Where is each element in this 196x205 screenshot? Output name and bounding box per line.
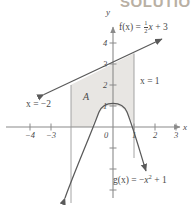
x-axis-label: x [183, 122, 187, 132]
g-label-constant: + 1 [152, 175, 167, 185]
y-axis-label: y [106, 7, 110, 17]
area-between-curves-figure: SOLUTIO [0, 0, 196, 205]
f-label-fraction: 12 [144, 20, 148, 34]
x-tick-label-1: 1 [132, 130, 136, 140]
x-tick-label-minus-4: −4 [25, 130, 35, 140]
f-label-constant: + 3 [153, 22, 168, 32]
y-tick-label-1: 1 [103, 101, 107, 111]
f-fraction-denominator: 2 [144, 28, 148, 35]
function-f-label: f(x) = 12x + 3 [119, 20, 168, 34]
y-tick-label-4: 4 [103, 38, 107, 48]
y-tick-label-3: 3 [103, 59, 107, 69]
g-label-prefix: g(x) = − [113, 175, 144, 185]
x-tick-label-minus-3: −3 [46, 130, 56, 140]
y-tick-label-2: 2 [103, 80, 107, 90]
boundary-label-x-minus-2: x = −2 [26, 99, 51, 109]
f-label-prefix: f(x) = [119, 22, 143, 32]
x-tick-label-3: 3 [174, 130, 178, 140]
x-tick-label-2: 2 [153, 130, 157, 140]
function-g-label: g(x) = −x2 + 1 [113, 173, 167, 185]
boundary-label-x-1: x = 1 [140, 76, 160, 86]
region-label-a: A [83, 91, 89, 102]
origin-label: 0 [104, 130, 108, 140]
